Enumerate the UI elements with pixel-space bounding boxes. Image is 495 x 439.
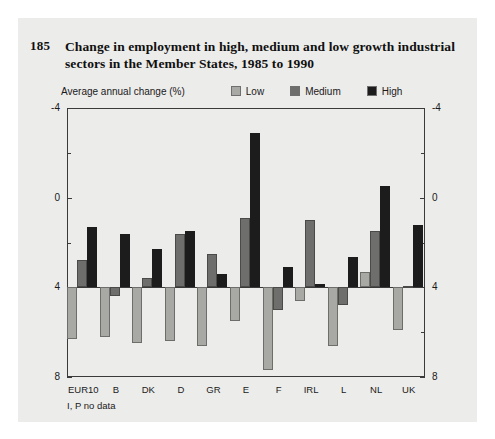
- bar-group-dk: [132, 108, 162, 377]
- bar-l-high: [348, 257, 358, 287]
- y-axis-label-right--4: -4: [432, 102, 456, 113]
- y-tick--4-left: [67, 377, 72, 378]
- bar-f-high: [283, 267, 293, 287]
- y-tick--4-right: [420, 377, 425, 378]
- bar-group-e: [230, 108, 260, 377]
- bar-group-gr: [197, 108, 227, 377]
- legend-item-low: Low: [231, 86, 264, 97]
- bar-gr-high: [217, 274, 227, 287]
- bar-uk-low: [393, 287, 403, 330]
- legend-swatch-medium: [290, 86, 300, 96]
- bar-group-irl: [295, 108, 325, 377]
- legend-label-high: High: [382, 86, 403, 97]
- plot-area: [67, 108, 425, 377]
- bar-irl-medium: [305, 220, 315, 287]
- y-axis-label-right-4: 4: [432, 281, 456, 292]
- bar-b-medium: [110, 287, 120, 296]
- bar-dk-medium: [142, 278, 152, 287]
- bar-eur10-medium: [77, 260, 87, 287]
- bar-d-high: [185, 231, 195, 287]
- bar-group-nl: [360, 108, 390, 377]
- bar-group-eur10: [67, 108, 97, 377]
- bar-b-low: [100, 287, 110, 336]
- bar-e-high: [250, 133, 260, 288]
- bar-group-uk: [393, 108, 423, 377]
- bar-uk-medium: [403, 286, 413, 288]
- legend: Average annual change (%) Low Medium Hig…: [61, 84, 402, 98]
- bar-irl-low: [295, 287, 305, 300]
- bar-irl-high: [315, 284, 325, 287]
- bar-dk-low: [132, 287, 142, 343]
- bar-group-f: [263, 108, 293, 377]
- y-axis-label-left-0: 0: [36, 192, 60, 203]
- bar-b-high: [120, 234, 130, 288]
- legend-swatch-high: [367, 86, 377, 96]
- bar-gr-low: [197, 287, 207, 345]
- bar-nl-low: [360, 272, 370, 288]
- y-axis-label-right-0: 0: [432, 192, 456, 203]
- bar-eur10-high: [87, 227, 97, 288]
- bar-nl-medium: [370, 231, 380, 287]
- bar-group-b: [100, 108, 130, 377]
- bar-dk-high: [152, 249, 162, 287]
- bar-l-medium: [338, 287, 348, 305]
- bar-f-medium: [273, 287, 283, 309]
- footnote: I, P no data: [67, 400, 115, 411]
- bar-d-low: [165, 287, 175, 341]
- bar-d-medium: [175, 234, 185, 288]
- figure-container: 185 Change in employment in high, medium…: [0, 0, 495, 439]
- bar-group-d: [165, 108, 195, 377]
- x-axis-label-uk: UK: [382, 384, 435, 395]
- legend-label-low: Low: [246, 86, 264, 97]
- y-axis-label-left-4: 4: [36, 281, 60, 292]
- legend-caption: Average annual change (%): [61, 86, 185, 97]
- figure-title: Change in employment in high, medium and…: [65, 38, 465, 72]
- bar-f-low: [263, 287, 273, 370]
- bar-l-low: [328, 287, 338, 345]
- bar-gr-medium: [207, 254, 217, 288]
- y-axis-label-left-8: 8: [36, 371, 60, 382]
- bar-eur10-low: [67, 287, 77, 339]
- legend-label-medium: Medium: [305, 86, 341, 97]
- bar-e-low: [230, 287, 240, 321]
- bar-group-l: [328, 108, 358, 377]
- legend-item-medium: Medium: [290, 86, 341, 97]
- y-axis-label-right-8: 8: [432, 371, 456, 382]
- bar-nl-high: [380, 186, 390, 287]
- y-axis-label-left--4: -4: [36, 102, 60, 113]
- figure-number: 185: [30, 38, 50, 54]
- bar-e-medium: [240, 218, 250, 287]
- legend-swatch-low: [231, 86, 241, 96]
- legend-item-high: High: [367, 86, 403, 97]
- bar-uk-high: [413, 225, 423, 288]
